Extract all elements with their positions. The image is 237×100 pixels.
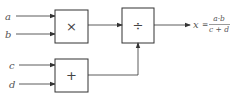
input-label-a: a	[5, 11, 11, 22]
input-label-b: b	[5, 29, 11, 40]
add-block: +	[55, 59, 88, 92]
add-symbol: +	[66, 68, 77, 83]
arrow-add-to-divide	[88, 43, 138, 75]
divide-symbol: ÷	[133, 18, 144, 33]
output-equals: =	[202, 20, 208, 29]
output-denominator: c + d	[209, 25, 229, 34]
output-formula: x = a·b c + d	[193, 14, 230, 34]
block-diagram: a b c d × + ÷ x = a·b c + d	[0, 0, 237, 100]
input-label-c: c	[9, 60, 15, 71]
input-label-d: d	[9, 79, 15, 90]
multiply-symbol: ×	[66, 19, 77, 34]
multiply-block: ×	[55, 10, 88, 43]
output-numerator: a·b	[213, 14, 225, 23]
divide-block: ÷	[122, 8, 154, 43]
output-variable: x	[193, 19, 199, 30]
